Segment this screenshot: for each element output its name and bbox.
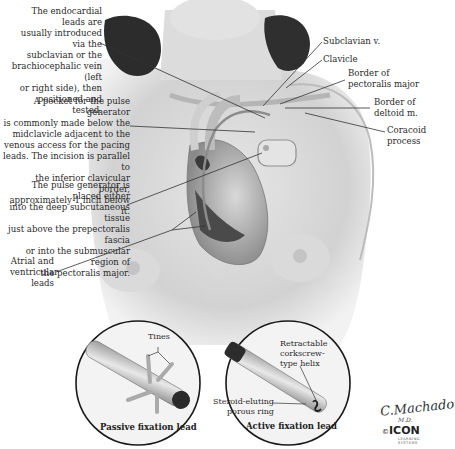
callout-line: leads: [10, 278, 54, 289]
callout-line: usually introduced via the: [6, 28, 102, 50]
label-tines: Tines: [148, 331, 170, 342]
callout-line: Atrial and: [10, 256, 54, 267]
callout-line: A pocket for the pulse generator: [2, 96, 130, 118]
callout-line: Retractable: [280, 339, 327, 349]
callout-coracoid-process: Coracoid process: [387, 125, 426, 147]
callout-line: Coracoid: [387, 125, 426, 136]
callout-line: is commonly made below the: [2, 118, 130, 129]
callout-line: brachiocephalic vein (left: [6, 61, 102, 83]
artist-credential: M.D.: [398, 416, 413, 423]
caption-active-fixation-lead: Active fixation lead: [246, 421, 337, 431]
callout-line: porous ring: [212, 407, 274, 417]
callout-subclavian-v: Subclavian v.: [323, 36, 380, 47]
callout-line: deltoid m.: [374, 108, 418, 119]
callout-line: Subclavian v.: [323, 36, 380, 47]
callout-line: corkscrew-: [280, 349, 327, 359]
callout-line: venous access for the pacing: [2, 140, 130, 151]
publisher-logo: ©ICON: [382, 424, 420, 437]
logo-text: ICON: [389, 424, 420, 437]
callout-line: The endocardial leads are: [6, 6, 102, 28]
callout-line: pectoralis major: [348, 79, 419, 90]
copyright-symbol: ©: [382, 428, 389, 436]
callout-border-deltoid: Border of deltoid m.: [374, 97, 418, 119]
callout-line: just above the prepectoralis fascia: [2, 224, 130, 246]
callout-line: into the deep subcutaneous tissue: [2, 202, 130, 224]
label-steroid-eluting-ring: Steroid-eluting porous ring: [212, 397, 274, 417]
callout-line: type helix: [280, 359, 327, 369]
callout-atrial-ventricular-leads: Atrial and ventricular leads: [10, 256, 54, 289]
callout-line: subclavian or the: [6, 50, 102, 61]
callout-line: process: [387, 136, 426, 147]
callout-line: Border of: [348, 68, 419, 79]
callout-line: Steroid-eluting: [212, 397, 274, 407]
label-retractable-helix: Retractable corkscrew- type helix: [280, 339, 327, 369]
callout-line: Border of: [374, 97, 418, 108]
callout-line: midclavicle adjacent to the: [2, 129, 130, 140]
callout-line: Clavicle: [323, 54, 358, 65]
callout-line: leads. The incision is parallel to: [2, 151, 130, 173]
callout-border-pectoralis: Border of pectoralis major: [348, 68, 419, 90]
callout-line: ventricular: [10, 267, 54, 278]
logo-subtitle: LEARNING SYSTEMS: [398, 437, 437, 445]
callout-clavicle: Clavicle: [323, 54, 358, 65]
caption-passive-fixation-lead: Passive fixation lead: [100, 422, 197, 432]
callout-line: The pulse generator is placed either: [2, 180, 130, 202]
callout-line: or right side), then: [6, 83, 102, 94]
